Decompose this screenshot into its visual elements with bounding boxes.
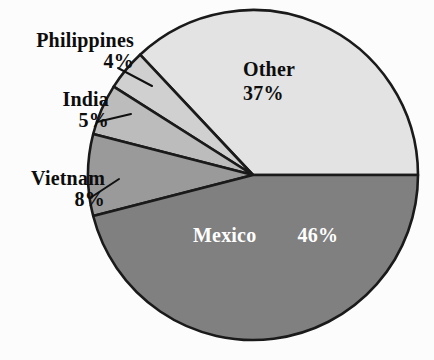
pie-label-vietnam-value: 8%: [2, 189, 105, 210]
pie-label-other: Other 37%: [243, 58, 295, 105]
pie-label-india-value: 5%: [8, 110, 109, 131]
pie-label-philippines-name: Philippines: [8, 30, 134, 51]
pie-label-india: India 5%: [8, 89, 109, 131]
pie-label-mexico-value: 46%: [298, 224, 339, 246]
pie-label-other-name: Other: [243, 58, 295, 82]
pie-label-india-name: India: [8, 89, 109, 110]
pie-label-mexico: Mexico 46%: [193, 224, 338, 247]
pie-label-philippines: Philippines 4%: [8, 30, 134, 72]
pie-label-vietnam: Vietnam 8%: [2, 168, 105, 210]
pie-label-philippines-value: 4%: [8, 51, 134, 72]
pie-chart: Philippines 4% India 5% Vietnam 8% Other…: [0, 0, 434, 360]
pie-label-vietnam-name: Vietnam: [2, 168, 105, 189]
pie-label-mexico-name: Mexico: [193, 224, 256, 246]
pie-label-other-value: 37%: [243, 82, 295, 106]
